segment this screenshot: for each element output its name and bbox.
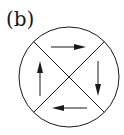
arrow-up-icon (37, 61, 43, 96)
arrow-left-icon (52, 105, 87, 111)
arrow-down-icon (95, 61, 101, 96)
arrow-right-icon (51, 44, 86, 50)
circulation-diagram (0, 0, 124, 135)
